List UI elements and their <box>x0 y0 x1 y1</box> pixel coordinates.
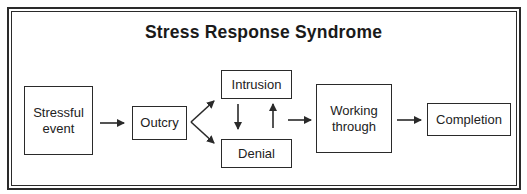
arrows-layer <box>0 0 527 194</box>
arrow-outcry-to-denial <box>191 122 214 143</box>
arrow-outcry-to-intrusion <box>191 101 214 122</box>
